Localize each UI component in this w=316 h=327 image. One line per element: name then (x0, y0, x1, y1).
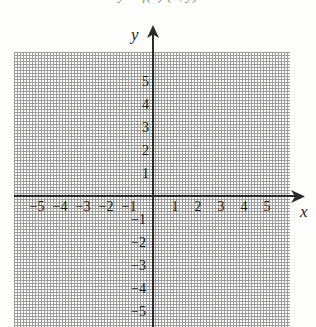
coordinate-plane-figure: y = f(x) (x, y) y x −5−4−3−2−11234554321… (0, 0, 316, 327)
x-tick-label: −5 (26, 200, 48, 214)
arrow-up-icon (146, 25, 160, 39)
y-tick-label: −2 (126, 236, 146, 250)
y-tick-label: 1 (129, 167, 149, 181)
x-axis-label: x (300, 203, 308, 220)
x-axis-line (14, 195, 300, 197)
x-tick-label: 2 (187, 200, 209, 214)
y-tick-label: 2 (129, 144, 149, 158)
y-axis-line (152, 30, 154, 327)
y-tick-label: −4 (126, 282, 146, 296)
x-tick-label: 1 (164, 200, 186, 214)
x-tick-label: 5 (256, 200, 278, 214)
y-tick-label: 4 (129, 98, 149, 112)
x-tick-label: 4 (233, 200, 255, 214)
y-tick-label: −3 (126, 259, 146, 273)
x-tick-label: −4 (49, 200, 71, 214)
clipped-header-text: y = f(x) (x, y) (0, 0, 316, 3)
x-tick-label: 3 (210, 200, 232, 214)
y-tick-label: −5 (126, 305, 146, 319)
y-tick-label: 3 (129, 121, 149, 135)
y-axis-label: y (131, 26, 139, 43)
x-tick-label: −3 (72, 200, 94, 214)
y-tick-label: −1 (126, 213, 146, 227)
x-tick-label: −2 (95, 200, 117, 214)
y-tick-label: 5 (129, 75, 149, 89)
